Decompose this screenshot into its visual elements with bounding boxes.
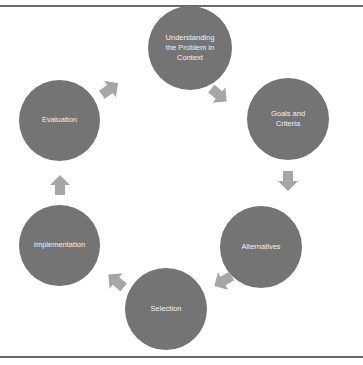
arrow-evaluation-to-understanding-icon xyxy=(95,74,126,105)
node-label-line: Goals and xyxy=(271,109,305,119)
arrow-selection-to-implementation-icon xyxy=(101,266,132,297)
arrow-implementation-to-evaluation-icon xyxy=(49,174,71,196)
node-label-line: Understanding xyxy=(166,33,215,43)
arrow-goals-to-alternatives-icon xyxy=(277,170,299,192)
node-label-line: Evaluation xyxy=(42,115,77,125)
node-label-line: the Problem in xyxy=(166,43,215,53)
bottom-border-rule xyxy=(0,356,363,358)
node-implementation: Implementation xyxy=(19,205,100,286)
node-label-line: Alternatives xyxy=(241,242,280,252)
node-label-line: Context xyxy=(166,53,215,63)
node-label-line: Selection xyxy=(151,304,182,314)
node-goals: Goals and Criteria xyxy=(247,78,329,160)
node-evaluation: Evaluation xyxy=(19,80,100,161)
node-label-line: Implementation xyxy=(34,240,85,250)
node-selection: Selection xyxy=(125,268,207,350)
node-understanding: Understanding the Problem in Context xyxy=(148,6,232,90)
node-label-line: Criteria xyxy=(271,119,305,129)
